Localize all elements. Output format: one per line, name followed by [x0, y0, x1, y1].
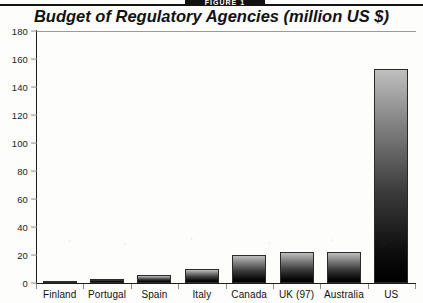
y-axis-tick-label: 80 — [0, 166, 28, 177]
bar — [232, 255, 266, 283]
x-axis-label: Finland — [43, 289, 77, 300]
y-axis-tick-label: 20 — [0, 250, 28, 261]
bar — [137, 275, 171, 283]
y-axis-tick-label: 160 — [0, 54, 28, 65]
chart-title: Budget of Regulatory Agencies (million U… — [0, 7, 423, 26]
y-axis-tick-label: 140 — [0, 82, 28, 93]
x-axis-tick-mark — [83, 284, 84, 289]
x-axis-label: US — [384, 289, 398, 300]
figure-banner: FIGURE 1 — [0, 0, 423, 6]
x-axis-tick-mark — [273, 284, 274, 289]
x-axis-tick-mark — [226, 284, 227, 289]
y-axis-tick-label: 180 — [0, 26, 28, 37]
x-axis-label: Canada — [231, 289, 267, 300]
x-axis-label: Portugal — [88, 289, 126, 300]
plot-area — [36, 31, 415, 283]
bar — [280, 252, 314, 283]
y-axis-tick-label: 40 — [0, 222, 28, 233]
y-axis-tick-label: 120 — [0, 110, 28, 121]
x-axis-tick-mark — [415, 284, 416, 289]
x-axis-tick-mark — [36, 284, 37, 289]
x-axis-tick-mark — [368, 284, 369, 289]
y-axis-tick-label: 0 — [0, 278, 28, 289]
bar — [327, 252, 361, 283]
bar — [43, 281, 77, 284]
bar — [185, 269, 219, 283]
bar — [90, 279, 124, 283]
x-axis-label: Spain — [141, 289, 167, 300]
x-axis-tick-mark — [320, 284, 321, 289]
figure-banner-label: FIGURE 1 — [185, 0, 265, 5]
x-axis-label: Australia — [324, 289, 364, 300]
x-axis-tick-mark — [178, 284, 179, 289]
x-axis-tick-mark — [131, 284, 132, 289]
x-axis-label: Italy — [192, 289, 211, 300]
x-axis-label: UK (97) — [279, 289, 314, 300]
figure-root: FIGURE 1 Budget of Regulatory Agencies (… — [0, 0, 423, 303]
y-axis-tick-label: 60 — [0, 194, 28, 205]
y-axis-tick-label: 100 — [0, 138, 28, 149]
bar — [374, 69, 408, 283]
